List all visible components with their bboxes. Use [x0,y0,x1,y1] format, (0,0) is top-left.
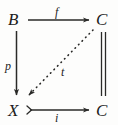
edge-label-t: t [61,66,64,78]
edge-label-f: f [55,6,58,18]
edge-t-dotted-arrow [29,30,93,95]
commutative-diagram: B C X C f p i t [0,0,118,125]
edge-i-mono-tail-icon [27,106,32,114]
node-c-top-right: C [96,11,107,28]
node-b: B [8,11,18,28]
node-c-bottom-right: C [96,102,107,119]
edge-label-p: p [5,60,11,72]
node-x: X [8,102,18,119]
edge-label-i: i [55,112,58,124]
